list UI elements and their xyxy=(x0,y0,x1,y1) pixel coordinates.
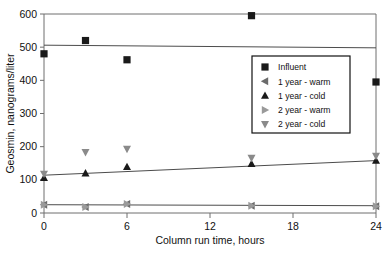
series-1-year-cold xyxy=(40,156,380,181)
chart-container: 010020030040050060006121824Column run ti… xyxy=(0,0,392,258)
legend-label: 1 year - cold xyxy=(278,91,326,101)
data-point xyxy=(40,171,48,178)
y-axis-tick-label: 100 xyxy=(19,173,37,185)
legend-label: Influent xyxy=(278,62,307,72)
y-axis-tick-label: 500 xyxy=(19,41,37,53)
y-axis-tick-label: 200 xyxy=(19,140,37,152)
x-axis-tick-label: 12 xyxy=(204,220,216,232)
x-axis-tick-label: 0 xyxy=(41,220,47,232)
legend-label: 2 year - cold xyxy=(278,119,326,129)
data-point xyxy=(123,163,131,170)
data-point xyxy=(248,155,256,162)
geosmin-scatter-chart: 010020030040050060006121824Column run ti… xyxy=(0,0,392,258)
data-point xyxy=(82,149,90,156)
data-point xyxy=(40,50,47,57)
data-point xyxy=(123,56,130,63)
x-axis-tick-label: 18 xyxy=(287,220,299,232)
data-point xyxy=(123,146,131,153)
legend-marker-square xyxy=(261,63,268,70)
x-axis-tick-label: 24 xyxy=(370,220,382,232)
data-point xyxy=(82,37,89,44)
trendline-influent xyxy=(44,45,376,48)
x-axis-title: Column run time, hours xyxy=(155,234,264,246)
trendline-1-year-warm xyxy=(44,205,376,206)
y-axis-tick-label: 0 xyxy=(31,207,37,219)
y-axis-tick-label: 600 xyxy=(19,8,37,20)
data-point xyxy=(248,12,255,19)
legend-label: 2 year - warm xyxy=(278,105,331,115)
legend-label: 1 year - warm xyxy=(278,77,331,87)
y-axis-title: Geosmin, nanograms/liter xyxy=(4,53,16,174)
chart-legend: Influent1 year - warm1 year - cold2 year… xyxy=(252,56,350,133)
data-point xyxy=(372,153,380,160)
x-axis-tick-label: 6 xyxy=(124,220,130,232)
y-axis-tick-label: 300 xyxy=(19,107,37,119)
data-point xyxy=(372,78,379,85)
data-point xyxy=(82,169,90,176)
trendline-1-year-cold xyxy=(44,161,376,176)
y-axis-tick-label: 400 xyxy=(19,74,37,86)
